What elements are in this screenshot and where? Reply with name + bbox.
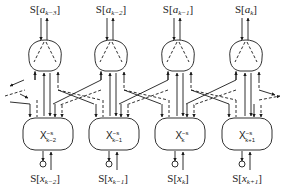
observation-node (40, 161, 46, 167)
bottom-node-label: S[xk] (167, 172, 188, 187)
observation-node (172, 161, 178, 167)
internal-edge (100, 42, 110, 62)
factor-node-label: X−sk (175, 128, 184, 145)
top-node-label: S[ak−2] (96, 3, 126, 19)
cross-edge (119, 80, 168, 104)
observation-node (239, 161, 245, 167)
internal-edge (46, 42, 56, 62)
cross-edge (186, 80, 236, 104)
factor-node-label: X−sk+1 (239, 128, 255, 145)
top-node-label: S[ak] (235, 3, 257, 19)
top-node-label: S[ak−1] (163, 3, 193, 19)
variable-node (162, 40, 195, 71)
arrow (20, 94, 28, 98)
top-node-label: S[ak−3] (30, 3, 60, 19)
internal-edge (167, 42, 177, 62)
left-out-arrow (10, 80, 24, 86)
variable-node (230, 40, 263, 71)
internal-edge (179, 42, 189, 62)
internal-edge (247, 42, 257, 62)
internal-edge (112, 42, 122, 62)
right-out-arrow (259, 90, 275, 95)
right-out-arrow (259, 96, 280, 100)
bottom-node-label: S[xk−1] (98, 172, 128, 187)
edge (10, 102, 30, 104)
internal-edge (235, 42, 245, 62)
internal-edge (34, 42, 44, 62)
cross-edge (53, 80, 101, 104)
variable-node (29, 40, 62, 71)
factor-node-label: X−sk−2 (40, 128, 56, 145)
variable-node (95, 40, 128, 71)
bottom-node-label: S[xk+1] (232, 172, 262, 187)
bottom-node-label: S[xk−2] (30, 172, 60, 187)
message-passing-diagram (0, 0, 292, 187)
factor-node-label: X−sk−1 (106, 128, 122, 145)
observation-node (106, 161, 112, 167)
